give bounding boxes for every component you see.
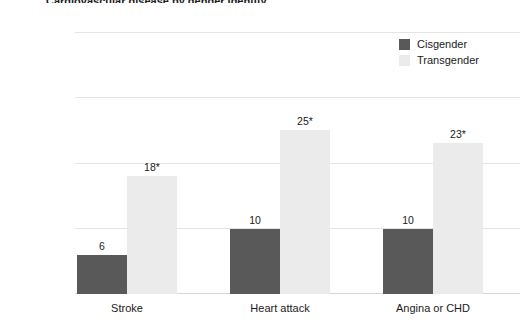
legend-item-transgender[interactable]: Transgender xyxy=(399,55,479,66)
bar-heart-attack-transgender xyxy=(280,130,330,294)
bar-value-angina-or-chd-transgender: 23* xyxy=(433,129,483,140)
x-tick-label-stroke: Stroke xyxy=(77,302,177,314)
legend-label-cisgender: Cisgender xyxy=(417,39,467,50)
bar-heart-attack-cisgender xyxy=(230,229,280,294)
bar-value-angina-or-chd-cisgender: 10 xyxy=(383,215,433,226)
bar-value-stroke-cisgender: 6 xyxy=(77,241,127,252)
bar-angina-or-chd-cisgender xyxy=(383,229,433,294)
x-tick-label-heart-attack: Heart attack xyxy=(230,302,330,314)
legend: Cisgender Transgender xyxy=(392,33,487,72)
legend-label-transgender: Transgender xyxy=(417,55,479,66)
bar-angina-or-chd-transgender xyxy=(433,143,483,294)
chart-title-fragment: Cardiovascular disease by gender identit… xyxy=(46,0,286,3)
chart-title-text: Cardiovascular disease by gender identit… xyxy=(46,0,267,3)
bar-value-heart-attack-transgender: 25* xyxy=(280,116,330,127)
legend-swatch-icon-cisgender xyxy=(399,39,410,50)
legend-item-cisgender[interactable]: Cisgender xyxy=(399,39,479,50)
bar-value-stroke-transgender: 18* xyxy=(127,162,177,173)
bar-stroke-transgender xyxy=(127,176,177,294)
bar-stroke-cisgender xyxy=(77,255,127,294)
x-tick-label-angina-or-chd: Angina or CHD xyxy=(383,302,483,314)
bar-chart: Cardiovascular disease by gender identit… xyxy=(0,0,528,327)
legend-swatch-icon-transgender xyxy=(399,55,410,66)
bar-value-heart-attack-cisgender: 10 xyxy=(230,215,280,226)
